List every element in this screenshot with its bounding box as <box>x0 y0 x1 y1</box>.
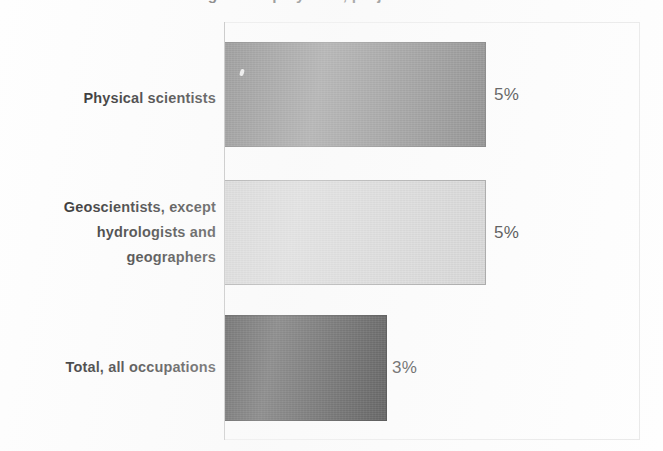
chart-title-clipped-row: Percent change in employment, projected … <box>0 0 663 11</box>
value-label-physical-scientists: 5% <box>494 85 519 105</box>
category-label-line: Physical scientists <box>8 86 216 111</box>
value-label-total-all-occupations: 3% <box>392 358 417 378</box>
category-label-line: hydrologists and <box>8 220 216 245</box>
bar-geoscientists <box>224 180 486 285</box>
category-label-physical-scientists: Physical scientists <box>8 86 216 111</box>
bar-scan-texture <box>225 43 485 146</box>
category-label-total-all-occupations: Total, all occupations <box>8 355 216 380</box>
bar-total-all-occupations <box>224 315 387 421</box>
category-label-line: Geoscientists, except <box>8 195 216 220</box>
bar-scan-texture <box>225 181 485 284</box>
bar-chart-figure: Percent change in employment, projected … <box>0 0 663 451</box>
chart-title: Percent change in employment, projected … <box>108 0 486 4</box>
category-label-line: geographers <box>8 245 216 270</box>
value-label-geoscientists: 5% <box>494 223 519 243</box>
category-axis-line <box>224 22 225 440</box>
bar-physical-scientists <box>224 42 486 147</box>
category-label-geoscientists: Geoscientists, except hydrologists and g… <box>8 195 216 270</box>
category-label-line: Total, all occupations <box>8 355 216 380</box>
bar-scan-texture <box>225 316 386 420</box>
